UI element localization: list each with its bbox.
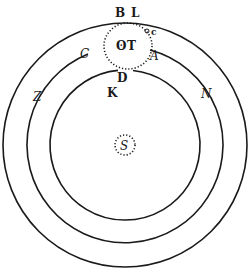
label-D: D	[117, 71, 127, 85]
earth-symbol-icon: ʘ	[116, 39, 126, 53]
label-c: c	[151, 27, 157, 37]
orbit-diagram: B L c C A ʘ T D K Z N S	[0, 0, 252, 278]
label-Z: Z	[32, 90, 42, 104]
label-T: T	[127, 39, 136, 53]
label-A: A	[149, 49, 159, 63]
label-K: K	[107, 86, 118, 100]
label-L: L	[131, 6, 140, 20]
label-C: C	[80, 47, 89, 61]
label-B: B	[115, 6, 125, 20]
label-S: S	[120, 139, 128, 153]
label-N: N	[200, 87, 212, 101]
